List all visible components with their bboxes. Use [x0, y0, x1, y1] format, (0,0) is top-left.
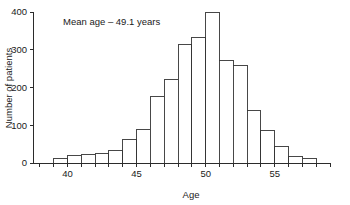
- histogram-bar: [219, 61, 233, 163]
- histogram-bar: [54, 159, 68, 163]
- y-tick-group: 0100200300400: [11, 6, 33, 168]
- histogram-figure: 40455055 0100200300400 Age Number of pat…: [0, 0, 350, 205]
- histogram-bar: [137, 129, 151, 163]
- histogram-bar: [289, 157, 303, 163]
- y-axis-label: Number of patients: [3, 48, 14, 129]
- histogram-bar: [123, 140, 137, 163]
- histogram-bar: [164, 80, 178, 163]
- histogram-bar: [192, 38, 206, 163]
- histogram-bar: [261, 130, 275, 163]
- histogram-bar: [233, 66, 247, 163]
- bars-group: [54, 12, 316, 163]
- histogram-bar: [247, 111, 261, 163]
- x-tick-label: 55: [269, 168, 280, 179]
- histogram-bar: [68, 155, 82, 163]
- histogram-bar: [302, 158, 316, 163]
- y-tick-label: 0: [22, 157, 27, 168]
- histogram-bar: [109, 150, 123, 163]
- histogram-bar: [150, 97, 164, 163]
- histogram-bar: [178, 44, 192, 163]
- x-tick-group: 40455055: [40, 163, 330, 179]
- x-tick-label: 50: [200, 168, 211, 179]
- mean-age-annotation: Mean age – 49.1 years: [63, 16, 160, 27]
- y-tick-label: 400: [11, 6, 27, 17]
- x-tick-label: 40: [62, 168, 73, 179]
- histogram-bar: [275, 146, 289, 163]
- x-tick-label: 45: [131, 168, 142, 179]
- chart-canvas: 40455055 0100200300400 Age Number of pat…: [0, 0, 350, 205]
- histogram-bar: [95, 154, 109, 163]
- histogram-bar: [206, 12, 220, 163]
- x-axis-label: Age: [183, 189, 200, 200]
- histogram-bar: [81, 154, 95, 163]
